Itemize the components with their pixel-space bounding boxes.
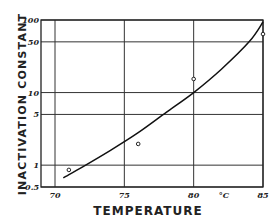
x-axis-title: TEMPERATURE	[93, 204, 202, 218]
data-point-marker	[136, 142, 140, 146]
x-unit-label: °C	[219, 190, 230, 200]
data-points	[67, 32, 265, 171]
fitted-curve	[63, 22, 263, 178]
y-tick-label: 10	[28, 88, 40, 98]
y-tick-label: 1	[33, 160, 39, 170]
y-tick-label: 50	[28, 37, 40, 47]
chart: 0.5151050100 70758085 °C TEMPERATURE INA…	[0, 0, 273, 224]
data-point-marker	[261, 32, 265, 36]
y-tick-label: 5	[33, 109, 39, 119]
plot-frame	[41, 20, 263, 187]
x-tick-label: 70	[49, 190, 61, 200]
x-tick-label: 85	[257, 190, 269, 200]
y-axis-title: INACTIVATION CONSTANT	[16, 13, 29, 196]
x-tick-label: 75	[119, 190, 131, 200]
data-point-marker	[67, 168, 71, 172]
data-point-marker	[192, 77, 196, 81]
x-tick-labels: 70758085	[49, 190, 269, 200]
x-tick-label: 80	[188, 190, 200, 200]
grid-lines	[41, 20, 263, 187]
